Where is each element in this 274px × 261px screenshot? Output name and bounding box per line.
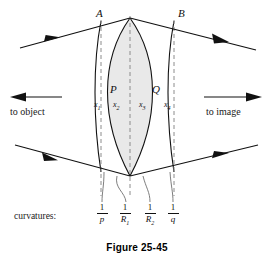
fraction-one-over-R1: 1 R1	[114, 203, 136, 226]
to-image-arrow-head	[246, 93, 262, 102]
ray-upper-incoming	[20, 18, 130, 48]
fraction-p-numerator: 1	[91, 203, 113, 212]
fraction-R1-numerator: 1	[114, 203, 136, 212]
label-x2: x2	[113, 101, 120, 111]
label-x2-sub: 2	[117, 105, 120, 111]
label-to-image: to image	[206, 107, 241, 117]
label-x1-sub: 1	[98, 105, 101, 111]
leader-curve-p	[102, 172, 104, 202]
fraction-one-over-R2: 1 R2	[139, 203, 161, 226]
ray-lower-incoming-arrowhead	[42, 153, 58, 162]
leader-curve-R1	[116, 176, 126, 202]
fraction-R2-denominator: R2	[139, 215, 161, 226]
fraction-one-over-q: 1 q	[162, 203, 184, 226]
label-to-object: to object	[10, 107, 45, 117]
wavefront-arc-image	[168, 21, 174, 172]
fraction-q-numerator: 1	[162, 203, 184, 212]
fraction-q-den-base: q	[171, 214, 176, 224]
ray-upper-outgoing	[130, 18, 256, 50]
label-Q: Q	[152, 84, 160, 95]
fraction-p-den-base: p	[100, 214, 105, 224]
fraction-R2-den-sub: 2	[151, 220, 154, 226]
label-x3-sub: 3	[143, 105, 146, 111]
optics-lens-diagram	[0, 0, 274, 261]
figure-caption: Figure 25-45	[0, 242, 274, 253]
wavefront-arc-object	[95, 21, 101, 172]
to-object-arrow-head	[10, 93, 26, 102]
label-B: B	[178, 8, 185, 19]
fraction-q-denominator: q	[162, 215, 184, 226]
fraction-R1-denominator: R1	[114, 215, 136, 226]
leader-curve-R2	[143, 176, 150, 202]
fraction-R1-den-sub: 1	[126, 220, 129, 226]
label-A: A	[96, 8, 103, 19]
fraction-p-denominator: p	[91, 215, 113, 226]
label-curvatures: curvatures:	[14, 212, 56, 222]
fraction-R2-numerator: 1	[139, 203, 161, 212]
label-x4: x4	[164, 101, 171, 111]
fraction-one-over-p: 1 p	[91, 203, 113, 226]
leader-curve-q	[170, 172, 173, 202]
label-P: P	[110, 84, 117, 95]
ray-upper-outgoing-arrowhead	[212, 33, 229, 43]
figure-25-45: A B P Q x1 x2 x3 x4 to object to image c…	[0, 0, 274, 261]
label-x1: x1	[94, 101, 101, 111]
label-x4-sub: 4	[168, 105, 171, 111]
label-x3: x3	[139, 101, 146, 111]
ray-lower-incoming	[15, 145, 130, 176]
ray-lower-outgoing	[130, 145, 258, 176]
